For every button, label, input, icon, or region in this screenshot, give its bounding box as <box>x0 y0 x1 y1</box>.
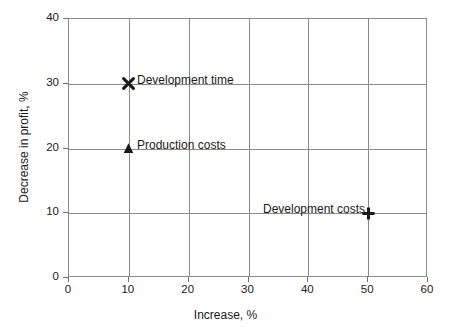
ytick-mark-10 <box>63 212 68 213</box>
ytick-mark-40 <box>63 18 68 19</box>
xtick-mark-0 <box>68 277 69 282</box>
ytick-mark-0 <box>63 277 68 278</box>
ytick-label-0: 0 <box>33 270 59 283</box>
xtick-mark-10 <box>128 277 129 282</box>
xtick-mark-20 <box>188 277 189 282</box>
xtick-label-50: 50 <box>347 283 387 296</box>
xtick-mark-60 <box>427 277 428 282</box>
xtick-label-10: 10 <box>108 283 148 296</box>
xtick-mark-50 <box>367 277 368 282</box>
ytick-label-30: 30 <box>33 76 59 89</box>
xtick-mark-30 <box>248 277 249 282</box>
ytick-mark-20 <box>63 148 68 149</box>
xtick-label-0: 0 <box>48 283 88 296</box>
point-label-development-time: Development time <box>137 73 234 87</box>
filled-triangle-marker[interactable] <box>120 140 137 157</box>
point-label-production-costs: Production costs <box>137 138 226 152</box>
x-axis-title: Increase, % <box>0 308 451 322</box>
xtick-label-20: 20 <box>168 283 208 296</box>
scatter-chart: Development time Production costs Develo… <box>0 0 451 335</box>
plot-area: Development time Production costs Develo… <box>68 18 427 277</box>
x-cross-marker[interactable] <box>120 75 137 92</box>
ytick-label-10: 10 <box>33 205 59 218</box>
xtick-label-30: 30 <box>228 283 268 296</box>
gridline-vertical-30 <box>249 19 250 276</box>
gridline-vertical-50 <box>368 19 369 276</box>
gridline-vertical-40 <box>308 19 309 276</box>
xtick-label-60: 60 <box>407 283 447 296</box>
xtick-mark-40 <box>307 277 308 282</box>
y-axis-title: Decrease in profit, % <box>17 47 31 247</box>
ytick-label-20: 20 <box>33 141 59 154</box>
point-label-development-costs: Development costs <box>263 202 365 216</box>
xtick-label-40: 40 <box>287 283 327 296</box>
ytick-label-40: 40 <box>33 11 59 24</box>
ytick-mark-30 <box>63 83 68 84</box>
